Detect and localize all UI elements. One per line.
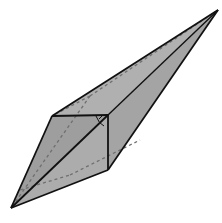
visible-edges (11, 10, 218, 208)
diagram-canvas (0, 0, 222, 223)
polyhedron-figure (0, 0, 222, 223)
